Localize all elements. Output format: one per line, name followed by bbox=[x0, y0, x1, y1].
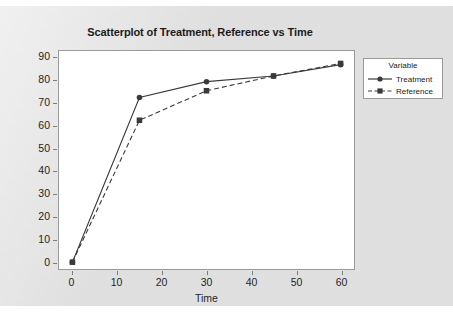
data-point-treatment-15 bbox=[137, 95, 143, 101]
x-tick-label-50: 50 bbox=[282, 276, 312, 288]
legend-label-reference: Reference bbox=[396, 87, 433, 96]
legend-title: Variable bbox=[364, 61, 442, 70]
y-tick-mark-20 bbox=[53, 217, 57, 218]
plot-canvas bbox=[59, 51, 354, 269]
y-tick-label-30: 30 bbox=[20, 187, 50, 199]
y-tick-label-0: 0 bbox=[20, 256, 50, 268]
x-axis-label: Time bbox=[58, 292, 355, 304]
y-tick-mark-0 bbox=[53, 263, 57, 264]
data-point-reference-30 bbox=[204, 88, 210, 94]
x-tick-mark-60 bbox=[342, 271, 343, 275]
legend-sample-treatment bbox=[367, 74, 393, 84]
plot-area bbox=[58, 50, 355, 270]
y-tick-mark-60 bbox=[53, 126, 57, 127]
x-tick-label-60: 60 bbox=[327, 276, 357, 288]
data-point-reference-60 bbox=[338, 61, 344, 67]
data-point-reference-45 bbox=[271, 73, 277, 79]
y-tick-label-50: 50 bbox=[20, 142, 50, 154]
y-tick-label-80: 80 bbox=[20, 73, 50, 85]
figure-background: Scatterplot of Treatment, Reference vs T… bbox=[0, 6, 453, 306]
x-tick-mark-40 bbox=[252, 271, 253, 275]
legend-item-treatment: Treatment bbox=[367, 73, 441, 85]
x-tick-mark-10 bbox=[117, 271, 118, 275]
y-tick-mark-30 bbox=[53, 194, 57, 195]
x-tick-mark-0 bbox=[72, 271, 73, 275]
x-tick-mark-50 bbox=[297, 271, 298, 275]
legend-label-treatment: Treatment bbox=[396, 75, 432, 84]
y-tick-label-60: 60 bbox=[20, 119, 50, 131]
y-tick-label-90: 90 bbox=[20, 50, 50, 62]
x-tick-label-20: 20 bbox=[147, 276, 177, 288]
y-tick-label-20: 20 bbox=[20, 210, 50, 222]
legend-box: Variable Treatment Reference bbox=[363, 58, 443, 99]
data-point-treatment-30 bbox=[204, 79, 210, 85]
y-tick-label-70: 70 bbox=[20, 96, 50, 108]
y-tick-mark-70 bbox=[53, 103, 57, 104]
y-tick-mark-10 bbox=[53, 240, 57, 241]
data-point-reference-0 bbox=[70, 259, 76, 265]
y-tick-label-10: 10 bbox=[20, 233, 50, 245]
legend-item-reference: Reference bbox=[367, 85, 441, 97]
data-point-reference-15 bbox=[137, 117, 143, 123]
x-tick-label-40: 40 bbox=[237, 276, 267, 288]
x-tick-mark-20 bbox=[162, 271, 163, 275]
chart-title: Scatterplot of Treatment, Reference vs T… bbox=[0, 26, 400, 38]
x-tick-label-30: 30 bbox=[192, 276, 222, 288]
legend-sample-reference bbox=[367, 86, 393, 96]
y-tick-label-40: 40 bbox=[20, 164, 50, 176]
series-line-treatment bbox=[72, 65, 340, 263]
x-tick-label-0: 0 bbox=[57, 276, 87, 288]
y-tick-mark-50 bbox=[53, 149, 57, 150]
y-tick-mark-40 bbox=[53, 171, 57, 172]
x-tick-mark-30 bbox=[207, 271, 208, 275]
x-tick-label-10: 10 bbox=[102, 276, 132, 288]
y-tick-mark-80 bbox=[53, 80, 57, 81]
y-tick-mark-90 bbox=[53, 57, 57, 58]
